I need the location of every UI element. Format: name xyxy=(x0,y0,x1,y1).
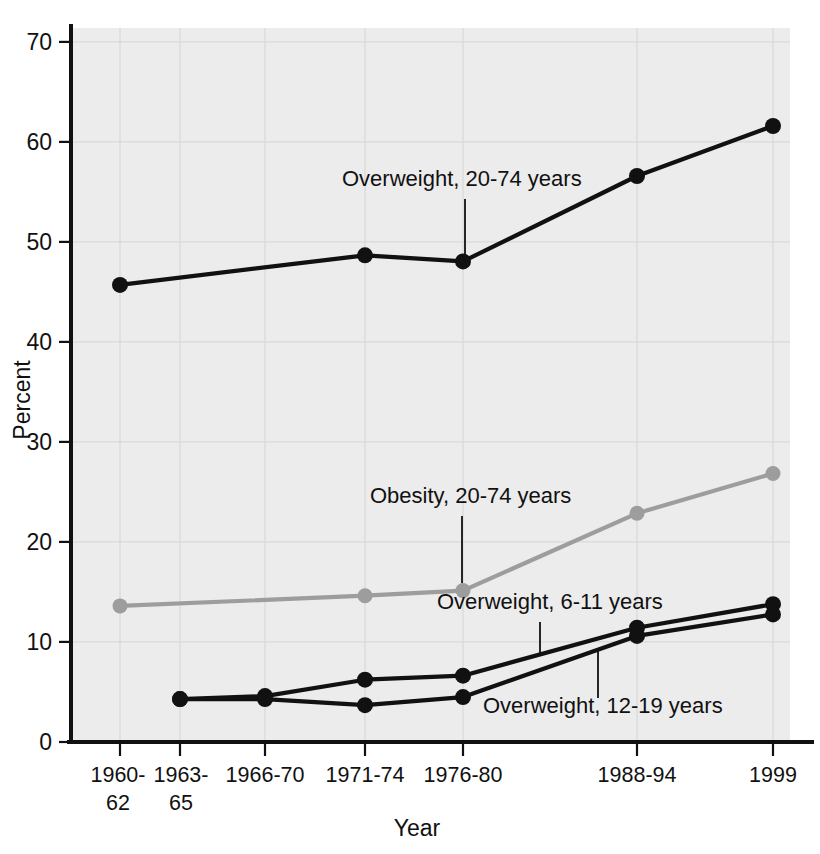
y-tick-label: 20 xyxy=(26,529,52,555)
annotation-label: Overweight, 12-19 years xyxy=(483,693,723,718)
data-point xyxy=(112,277,128,293)
data-point xyxy=(257,691,273,707)
data-point xyxy=(113,598,128,613)
chart-canvas: 70 60 50 40 30 20 10 0 Percent 1960- 62 … xyxy=(0,0,820,854)
y-tick-label: 40 xyxy=(26,329,52,355)
data-point xyxy=(357,672,373,688)
annotation-label: Overweight, 20-74 years xyxy=(342,166,582,191)
plot-background xyxy=(71,28,790,742)
data-point xyxy=(455,253,471,269)
data-point xyxy=(766,466,781,481)
x-axis-tick-labels: 1960- 62 1963- 65 1966-70 1971-74 1976-8… xyxy=(91,763,797,815)
data-point xyxy=(172,691,188,707)
data-point xyxy=(765,118,781,134)
x-tick-label: 1966-70 xyxy=(226,763,305,787)
y-tick-label: 60 xyxy=(26,129,52,155)
x-tick-label: 1971-74 xyxy=(326,763,405,787)
data-point xyxy=(358,588,373,603)
chart-figure: 70 60 50 40 30 20 10 0 Percent 1960- 62 … xyxy=(0,0,820,854)
data-point xyxy=(629,628,645,644)
data-point xyxy=(455,668,471,684)
x-axis-ticks xyxy=(120,742,773,756)
y-tick-label: 0 xyxy=(39,729,52,755)
data-point xyxy=(629,168,645,184)
x-tick-label-second-line: 62 xyxy=(106,791,130,815)
y-tick-label: 10 xyxy=(26,629,52,655)
annotation-label: Obesity, 20-74 years xyxy=(370,483,571,508)
data-point xyxy=(357,697,373,713)
y-axis-title: Percent xyxy=(9,360,35,440)
x-tick-label: 1976-80 xyxy=(424,763,503,787)
y-tick-label: 50 xyxy=(26,229,52,255)
data-point xyxy=(455,689,471,705)
annotation-label: Overweight, 6-11 years xyxy=(437,589,663,614)
x-tick-label: 1988-94 xyxy=(598,763,677,787)
x-axis-title: Year xyxy=(394,815,441,841)
data-point xyxy=(765,606,781,622)
x-tick-label: 1960- xyxy=(91,763,146,787)
y-tick-label: 70 xyxy=(26,29,52,55)
x-tick-label: 1963- xyxy=(154,763,209,787)
data-point xyxy=(357,247,373,263)
x-tick-label: 1999 xyxy=(749,763,797,787)
x-tick-label-second-line: 65 xyxy=(169,791,193,815)
data-point xyxy=(630,506,645,521)
